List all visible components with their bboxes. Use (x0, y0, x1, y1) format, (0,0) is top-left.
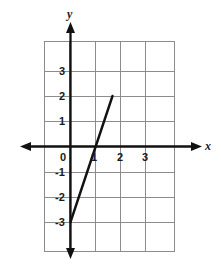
x-axis-label: x (205, 140, 211, 152)
y-tick-label-3: 3 (59, 66, 65, 77)
y-tick-label-neg3: -3 (55, 217, 65, 228)
coordinate-plane (0, 0, 221, 265)
y-axis-arrow-down (66, 248, 75, 259)
x-axis-arrow-left (20, 142, 31, 151)
y-axis (66, 22, 75, 259)
x-tick-label-1: 1 (91, 152, 97, 163)
y-axis-arrow-up (66, 22, 75, 33)
y-tick-label-2: 2 (59, 91, 65, 102)
x-tick-label-3: 3 (142, 152, 148, 163)
y-tick-label-neg1: -1 (55, 167, 65, 178)
x-axis-arrow-right (191, 142, 202, 151)
y-tick-label-neg2: -2 (55, 192, 65, 203)
y-tick-label-1: 1 (59, 116, 65, 127)
y-axis-label: y (67, 8, 72, 20)
graph-canvas: 0 1 2 3 3 2 1 -1 -2 -3 y x (0, 0, 221, 265)
x-tick-label-0: 0 (60, 152, 66, 163)
x-tick-label-2: 2 (117, 152, 123, 163)
